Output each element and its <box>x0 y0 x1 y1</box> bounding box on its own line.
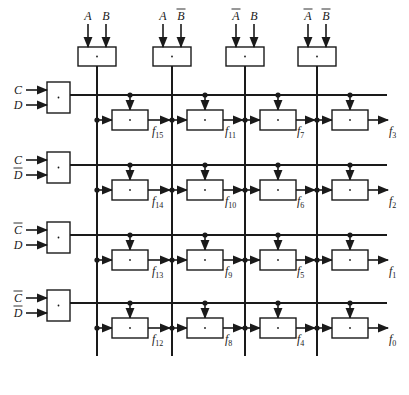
and-dot <box>349 259 351 261</box>
output-label-f7: f7 <box>297 124 304 140</box>
output-label-f13: f13 <box>152 264 163 280</box>
top-input-label-a: A <box>231 9 240 23</box>
output-subscript: 12 <box>155 339 163 348</box>
and-dot <box>129 189 131 191</box>
top-gate-abar-b <box>226 47 264 66</box>
left-gate-cd <box>47 82 70 113</box>
top-gate-abar-bbar <box>298 47 336 66</box>
top-input-label-a: A <box>158 9 167 23</box>
output-subscript: 9 <box>228 271 232 280</box>
and-dot <box>204 327 206 329</box>
output-label-f14: f14 <box>152 194 163 210</box>
output-gate-f14 <box>112 180 148 200</box>
output-gate-f7 <box>260 110 296 130</box>
output-gate-f2 <box>332 180 368 200</box>
output-subscript: 10 <box>228 201 236 210</box>
output-label-f6: f6 <box>297 194 304 210</box>
output-gate-f3 <box>332 110 368 130</box>
output-subscript: 13 <box>155 271 163 280</box>
output-subscript: 4 <box>300 339 304 348</box>
and-dot <box>58 167 60 169</box>
output-label-f8: f8 <box>225 332 232 348</box>
and-dot <box>129 259 131 261</box>
top-input-label-a: A <box>303 9 312 23</box>
left-gate-cbar-d <box>47 222 70 253</box>
and-dot <box>349 189 351 191</box>
top-input-label-b: B <box>250 9 258 23</box>
and-dot <box>96 56 98 58</box>
and-dot <box>129 119 131 121</box>
output-subscript: 1 <box>392 271 396 280</box>
output-label-f1: f1 <box>389 264 396 280</box>
left-gate-cbar-dbar <box>47 290 70 321</box>
output-gate-f8 <box>187 318 223 338</box>
output-label-f10: f10 <box>225 194 236 210</box>
left-gate-c-dbar <box>47 152 70 183</box>
top-gate-ab <box>78 47 116 66</box>
and-dot <box>58 97 60 99</box>
output-subscript: 0 <box>392 339 396 348</box>
left-input-label-d: D <box>13 98 23 112</box>
output-gate-f15 <box>112 110 148 130</box>
left-input-label-d: D <box>13 306 23 320</box>
and-dot <box>277 189 279 191</box>
and-dot <box>316 56 318 58</box>
top-input-label-b: B <box>102 9 110 23</box>
and-dot <box>58 305 60 307</box>
left-input-label-c: C <box>14 291 23 305</box>
output-subscript: 5 <box>300 271 304 280</box>
top-input-label-b: B <box>322 9 330 23</box>
and-dot <box>349 119 351 121</box>
output-subscript: 15 <box>155 131 163 140</box>
output-label-f4: f4 <box>297 332 304 348</box>
and-dot <box>277 259 279 261</box>
output-label-f3: f3 <box>389 124 396 140</box>
output-gate-f6 <box>260 180 296 200</box>
output-subscript: 6 <box>300 201 304 210</box>
and-dot <box>244 56 246 58</box>
output-label-f0: f0 <box>389 332 396 348</box>
left-input-label-d: D <box>13 238 23 252</box>
output-gate-f10 <box>187 180 223 200</box>
output-gate-f9 <box>187 250 223 270</box>
output-subscript: 11 <box>228 131 236 140</box>
left-input-label-d: D <box>13 168 23 182</box>
decoder-diagram: ABABABABCDCDCDCDf15f11f7f3f14f10f6f2f13f… <box>0 0 409 395</box>
and-dot <box>129 327 131 329</box>
and-dot <box>204 189 206 191</box>
and-dot <box>171 56 173 58</box>
top-input-label-a: A <box>83 9 92 23</box>
top-input-label-b: B <box>177 9 185 23</box>
output-label-f11: f11 <box>225 124 236 140</box>
output-label-f2: f2 <box>389 194 396 210</box>
output-subscript: 3 <box>392 131 396 140</box>
left-input-label-c: C <box>14 83 23 97</box>
and-dot <box>349 327 351 329</box>
output-gate-f13 <box>112 250 148 270</box>
output-label-f5: f5 <box>297 264 304 280</box>
output-gate-f1 <box>332 250 368 270</box>
and-dot <box>204 259 206 261</box>
and-dot <box>277 327 279 329</box>
output-gate-f4 <box>260 318 296 338</box>
output-subscript: 7 <box>300 131 304 140</box>
output-subscript: 14 <box>155 201 163 210</box>
output-gate-f11 <box>187 110 223 130</box>
output-gate-f5 <box>260 250 296 270</box>
output-label-f12: f12 <box>152 332 163 348</box>
output-label-f9: f9 <box>225 264 232 280</box>
output-subscript: 2 <box>392 201 396 210</box>
output-gate-f0 <box>332 318 368 338</box>
left-input-label-c: C <box>14 153 23 167</box>
and-dot <box>277 119 279 121</box>
top-gate-a-bbar <box>153 47 191 66</box>
output-label-f15: f15 <box>152 124 163 140</box>
left-input-label-c: C <box>14 223 23 237</box>
output-subscript: 8 <box>228 339 232 348</box>
and-dot <box>204 119 206 121</box>
diagram-layer: ABABABABCDCDCDCDf15f11f7f3f14f10f6f2f13f… <box>13 9 397 356</box>
output-gate-f12 <box>112 318 148 338</box>
and-dot <box>58 237 60 239</box>
